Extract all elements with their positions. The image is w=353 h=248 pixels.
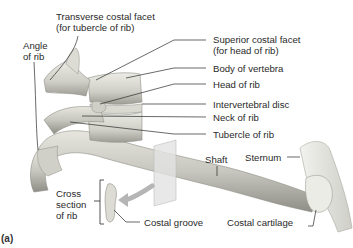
label-line: section [56,199,86,210]
label-line: Transverse costal facet [56,11,155,22]
cross-section-plane [154,140,176,206]
label-intervertebral-disc: Intervertebral disc [213,99,289,110]
label-angle-of-rib: Angle of rib [23,40,48,62]
costal-cartilage-shape [305,175,332,212]
label-line: of rib [56,210,86,221]
cross-section-bracket [94,180,104,224]
label-shaft: Shaft [205,154,227,165]
label-neck-of-rib: Neck of rib [213,112,259,123]
label-body-of-vertebra: Body of vertebra [213,63,283,74]
label-line: Angle [23,40,48,51]
arrow-icon [118,186,152,207]
label-costal-groove: Costal groove [144,217,203,228]
label-line: Cross [56,188,86,199]
label-costal-cartilage: Costal cartilage [227,217,293,228]
label-transverse-costal-facet: Transverse costal facet (for tubercle of… [56,11,155,33]
label-line: (for tubercle of rib) [56,22,155,33]
rib-cross-section-shape [105,184,116,222]
label-sternum: Sternum [245,152,281,163]
label-line: Superior costal facet [213,34,300,45]
rib-vertebra-diagram: Transverse costal facet (for tubercle of… [0,0,353,248]
label-cross-section: Cross section of rib [56,188,86,221]
panel-label: (a) [1,233,13,244]
label-line: of rib [23,51,48,62]
label-head-of-rib: Head of rib [213,79,260,90]
label-superior-costal-facet: Superior costal facet (for head of rib) [213,34,300,56]
label-tubercle-of-rib: Tubercle of rib [213,129,274,140]
label-line: (for head of rib) [213,45,300,56]
